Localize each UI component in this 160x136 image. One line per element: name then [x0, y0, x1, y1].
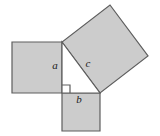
label-side-b: b [76, 93, 82, 105]
label-side-c: c [86, 57, 91, 69]
label-side-a: a [52, 59, 58, 71]
pythagorean-figure: a b c [0, 0, 160, 136]
figure-canvas: a b c [0, 0, 160, 136]
